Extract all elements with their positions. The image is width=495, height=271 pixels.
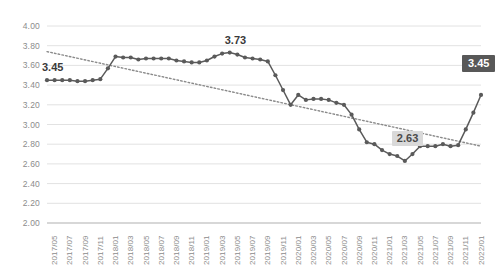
x-axis-tick-label: 2019/07 (248, 235, 257, 265)
data-point (220, 51, 224, 55)
data-point (136, 57, 140, 61)
data-point (327, 98, 331, 102)
data-point (456, 143, 460, 147)
data-point (266, 59, 270, 63)
x-axis-tick-label: 2019/01 (202, 235, 211, 265)
data-point (45, 78, 49, 82)
data-point (121, 55, 125, 59)
x-axis-tick-label: 2022/01 (477, 235, 486, 265)
data-point (349, 113, 353, 117)
data-point (403, 159, 407, 163)
data-point (113, 54, 117, 58)
data-point (258, 57, 262, 61)
x-axis-tick-label: 2021/03 (400, 235, 409, 265)
x-axis-tick-label: 2018/07 (157, 235, 166, 265)
x-axis-tick-label: 2018/05 (142, 235, 151, 265)
value-label: 3.45 (462, 55, 495, 72)
data-point (159, 56, 163, 60)
data-point (426, 144, 430, 148)
data-point (395, 154, 399, 158)
data-point (212, 54, 216, 58)
value-label: 2.63 (392, 131, 423, 146)
x-axis-tick-label: 2020/03 (309, 235, 318, 265)
x-axis-tick-label: 2020/01 (294, 235, 303, 265)
x-axis-tick-label: 2017/09 (81, 235, 90, 265)
x-axis-tick-label: 2019/03 (218, 235, 227, 265)
x-axis-tick-label: 2018/01 (111, 235, 120, 265)
data-point (174, 58, 178, 62)
data-point (98, 77, 102, 81)
data-point (235, 52, 239, 56)
x-axis-tick-label: 2018/03 (126, 235, 135, 265)
x-axis-tick-label: 2019/11 (279, 236, 288, 265)
x-axis-tick-label: 2019/09 (263, 235, 272, 265)
x-axis-tick-label: 2021/05 (416, 235, 425, 265)
data-point (197, 60, 201, 64)
data-point (448, 144, 452, 148)
data-point (334, 101, 338, 105)
x-axis-tick-label: 2020/09 (355, 235, 364, 265)
data-point (380, 148, 384, 152)
x-axis-tick-label: 2017/11 (96, 236, 105, 265)
value-label: 3.45 (42, 61, 63, 73)
data-point (296, 93, 300, 97)
data-point (182, 59, 186, 63)
x-axis-tick-label: 2019/05 (233, 235, 242, 265)
x-axis-tick-label: 2018/09 (172, 235, 181, 265)
data-point (441, 142, 445, 146)
data-point (228, 50, 232, 54)
data-point (75, 79, 79, 83)
data-point (289, 103, 293, 107)
data-point (60, 78, 64, 82)
data-point (190, 60, 194, 64)
data-point (319, 97, 323, 101)
data-point (68, 78, 72, 82)
data-point (372, 142, 376, 146)
x-axis-tick-label: 2020/07 (340, 235, 349, 265)
data-point (106, 66, 110, 70)
x-axis-tick-label: 2021/09 (446, 235, 455, 265)
x-axis-tick-label: 2021/07 (431, 235, 440, 265)
data-point (388, 152, 392, 156)
data-point (129, 55, 133, 59)
x-axis-tick-label: 2018/11 (187, 236, 196, 265)
data-point (91, 78, 95, 82)
data-point (365, 140, 369, 144)
data-point (311, 97, 315, 101)
value-label: 3.73 (225, 34, 246, 46)
data-point (433, 144, 437, 148)
data-point (167, 56, 171, 60)
data-point (53, 78, 57, 82)
x-axis-tick-label: 2021/11 (461, 236, 470, 265)
x-axis-tick-label: 2017/05 (50, 235, 59, 265)
data-point (144, 56, 148, 60)
data-point (342, 103, 346, 107)
data-point (464, 127, 468, 131)
data-series (45, 50, 483, 163)
data-point (205, 58, 209, 62)
data-point (273, 73, 277, 77)
data-point (83, 79, 87, 83)
data-point (479, 93, 483, 97)
data-point (151, 56, 155, 60)
x-axis-tick-label: 2021/01 (385, 235, 394, 265)
data-point (250, 56, 254, 60)
gridlines (47, 26, 481, 223)
x-axis-tick-label: 2020/05 (324, 235, 333, 265)
data-point (357, 127, 361, 131)
data-point (304, 98, 308, 102)
x-axis-tick-label: 2020/11 (370, 236, 379, 265)
data-point (243, 55, 247, 59)
data-point (281, 88, 285, 92)
x-axis-tick-label: 2017/07 (65, 235, 74, 265)
data-point (471, 111, 475, 115)
data-point (410, 152, 414, 156)
